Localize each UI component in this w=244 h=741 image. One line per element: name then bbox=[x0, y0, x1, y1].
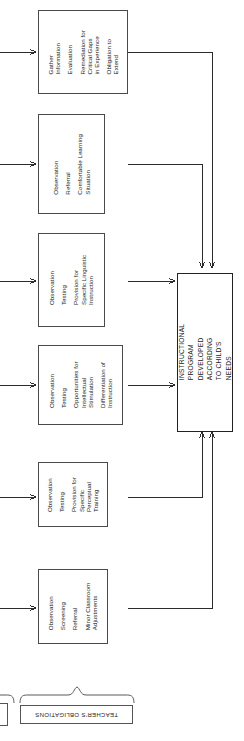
wire-box5-to-main bbox=[128, 432, 202, 497]
teachers-obligations-text: TEACHER'S OBLIGATIONS bbox=[35, 712, 118, 718]
wire-box1-to-main bbox=[128, 52, 212, 268]
left-stub-box bbox=[0, 703, 8, 726]
stage-line: Provision for Specific Linguistic Instru… bbox=[73, 255, 95, 305]
teachers-obligations-label: TEACHER'S OBLIGATIONS bbox=[20, 705, 133, 724]
stage-box-gather-information[interactable]: Gather Information Evaluation Remediatio… bbox=[38, 10, 128, 94]
stage-line: Referral bbox=[64, 172, 71, 194]
main-line: INSTRUCTIONAL PROGRAM bbox=[177, 324, 196, 380]
stage-line: Remediation for Critical Gaps in Experie… bbox=[78, 30, 100, 74]
stage-line: Obligation to Extend bbox=[105, 39, 119, 74]
stage-line: Evaluation bbox=[66, 45, 73, 74]
stage-box-intellectual-stimulation[interactable]: Observation Testing Opportunities for In… bbox=[38, 345, 123, 425]
main-line: DEVELOPED ACCORDING bbox=[196, 324, 215, 380]
stage-line: Gather Information bbox=[47, 43, 61, 75]
stage-box-text: Observation Referral Comfortable Learnin… bbox=[39, 115, 104, 213]
stage-box-comfortable-learning-situation[interactable]: Observation Referral Comfortable Learnin… bbox=[38, 114, 105, 214]
stage-line: Observation bbox=[52, 160, 59, 194]
instructional-program-text: INSTRUCTIONAL PROGRAM DEVELOPED ACCORDIN… bbox=[178, 274, 232, 431]
diagram-canvas: Gather Information Evaluation Remediatio… bbox=[0, 0, 244, 741]
stage-box-perceptual-training[interactable]: Observation Testing Provision for Specif… bbox=[38, 462, 108, 527]
stage-line: Comfortable Learning Situation bbox=[76, 134, 90, 195]
stage-line: Observation bbox=[49, 271, 56, 305]
stage-box-text: Observation Screening Referral Minor Cla… bbox=[39, 570, 107, 643]
stage-line: Opportunities for Intellectual Stimulati… bbox=[72, 362, 94, 409]
stage-line: Differentiation of Instruction bbox=[99, 362, 113, 408]
stage-box-specific-linguistic-instruction[interactable]: Observation Testing Provision for Specif… bbox=[38, 233, 105, 327]
left-brace-tail bbox=[0, 686, 16, 704]
stage-box-text: Observation Testing Provision for Specif… bbox=[39, 463, 107, 526]
stage-line: Testing bbox=[61, 285, 68, 305]
wire-box6-to-main bbox=[128, 432, 212, 608]
stage-line: Observation bbox=[48, 596, 55, 630]
instructional-program-box[interactable]: INSTRUCTIONAL PROGRAM DEVELOPED ACCORDIN… bbox=[177, 273, 233, 432]
stage-box-text: Observation Testing Opportunities for In… bbox=[39, 346, 122, 424]
stage-line: Observation bbox=[46, 478, 53, 512]
stage-line: Testing bbox=[59, 492, 66, 512]
stage-line: Observation bbox=[48, 374, 55, 408]
stage-box-text: Gather Information Evaluation Remediatio… bbox=[39, 11, 127, 93]
stage-box-minor-classroom-adjustments[interactable]: Observation Screening Referral Minor Cla… bbox=[38, 569, 108, 644]
stage-line: Screening bbox=[60, 602, 67, 630]
stage-line: Provision for Specific Perceptual Traini… bbox=[71, 477, 100, 512]
stage-box-text: Observation Testing Provision for Specif… bbox=[39, 234, 104, 326]
curly-brace bbox=[18, 686, 136, 704]
stage-line: Minor Classroom Adjustments bbox=[84, 583, 98, 631]
stage-line: Referral bbox=[72, 608, 79, 630]
stage-line: Testing bbox=[60, 388, 67, 408]
main-line: TO CHILD'S NEEDS bbox=[214, 324, 233, 380]
wire-box2-to-main bbox=[128, 164, 202, 268]
